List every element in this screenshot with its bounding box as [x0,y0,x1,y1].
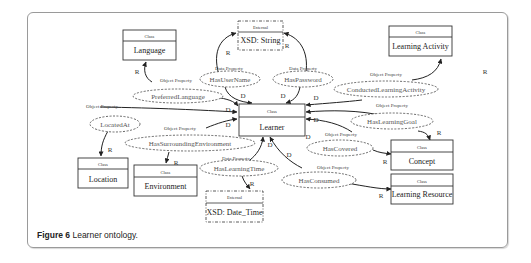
svg-text:Object Property: Object Property [325,132,357,137]
svg-text:ConductedLearningActivity: ConductedLearningActivity [347,86,426,94]
figure-title: Learner ontology. [70,230,138,240]
property-has-password: Data Property HasPassword [273,66,333,87]
domain-label: D [225,121,230,129]
domain-label: D [286,151,291,159]
edge-conducted-range [412,59,441,80]
svg-text:Class: Class [267,109,277,114]
edge-preferredlanguage-range [145,62,152,82]
svg-text:Class: Class [161,170,171,175]
svg-text:XSD: String: XSD: String [241,36,281,45]
property-has-user-name: Data Property HasUserName [200,66,260,87]
svg-text:Class: Class [417,179,427,184]
external-xsd-string: External XSD: String [238,21,283,50]
class-concept: Class Concept [391,140,453,170]
property-has-covered: Object Property HasCovered [307,132,373,156]
edge-haslearningtime-domain [250,137,263,160]
svg-text:PreferredLanguage: PreferredLanguage [151,93,205,101]
domain-label: D [225,106,230,114]
svg-text:XSD: Date_Time: XSD: Date_Time [207,208,263,217]
svg-text:Class: Class [145,34,155,39]
svg-text:Learning Activity: Learning Activity [392,42,449,51]
svg-text:Object Property: Object Property [86,104,118,109]
range-label: R [226,49,231,57]
external-xsd-datetime: External XSD: Date_Time [206,191,263,222]
edge-locatedat-domain [100,107,237,112]
svg-text:HasSurroundingEnvironment: HasSurroundingEnvironment [149,140,231,148]
range-label: R [108,146,113,154]
class-learning-resource: Class Learning Resource [391,174,453,204]
class-language: Class Language [123,30,176,60]
figure-caption: Figure 6 Learner ontology. [37,230,138,240]
svg-text:HasUserName: HasUserName [210,76,251,84]
domain-label: D [305,133,310,141]
range-label: R [437,129,442,137]
svg-text:Object Property: Object Property [317,165,349,170]
svg-text:Environment: Environment [145,182,188,191]
edge-hasconsumed-range [346,183,391,189]
svg-text:Data Property: Data Property [289,66,317,71]
svg-text:Object Property: Object Property [370,72,402,77]
svg-text:Language: Language [134,46,166,55]
domain-label: D [240,92,245,100]
range-label: R [250,180,255,188]
svg-text:Learner: Learner [260,123,285,132]
svg-text:Class: Class [98,162,108,167]
property-has-consumed: Object Property HasConsumed [282,165,356,188]
learner-ontology-diagram: .cls { fill: #fff; stroke: #333; stroke-… [0,0,531,263]
class-environment: Class Environment [134,165,197,196]
range-label: R [285,42,290,50]
svg-text:Object Property: Object Property [164,126,196,131]
property-has-surrounding-environment: Object Property HasSurroundingEnvironmen… [125,126,255,151]
domain-label: D [267,141,272,149]
property-has-learning-time: Data Property HasLearningTime [200,156,278,176]
svg-text:External: External [253,25,269,30]
property-has-learning-goal: Object Property HasLearningGoal [351,103,433,129]
edge-hascovered-range [373,150,391,154]
range-label: R [483,68,488,76]
svg-text:Concept: Concept [409,157,436,166]
domain-label: D [313,94,318,102]
edge-hassurrounding-domain [206,119,237,128]
domain-label: D [313,116,318,124]
class-learner: Class Learner [239,104,305,136]
svg-text:Class: Class [416,30,426,35]
svg-text:HasLearningGoal: HasLearningGoal [367,118,417,126]
class-learning-activity: Class Learning Activity [389,26,452,56]
svg-text:Object Property: Object Property [376,103,408,108]
svg-text:External: External [227,195,243,200]
svg-text:HasLearningTime: HasLearningTime [214,165,265,173]
figure-label: Figure 6 [37,230,70,240]
property-conducted-learning-activity: Object Property ConductedLearningActivit… [334,72,438,97]
svg-text:HasConsumed: HasConsumed [299,177,340,185]
edge-haslearninggoal-range [418,131,430,140]
svg-text:HasPassword: HasPassword [284,76,322,84]
svg-text:Data Property: Data Property [215,66,243,71]
svg-text:Class: Class [417,145,427,150]
domain-label: D [280,92,285,100]
range-label: R [379,192,384,200]
class-location: Class Location [78,158,128,188]
svg-text:Location: Location [89,175,117,184]
property-located-at: Object Property LocatedAt [86,104,140,132]
edge-hassurrounding-range [166,152,169,163]
range-label: R [135,68,140,76]
edge-haspassword-domain [286,87,300,103]
range-label: R [383,158,388,166]
svg-text:LocatedAt: LocatedAt [100,121,130,129]
svg-text:Object Property: Object Property [160,78,192,83]
svg-text:HasCovered: HasCovered [323,145,358,153]
svg-text:Learning Resource: Learning Resource [392,190,453,199]
